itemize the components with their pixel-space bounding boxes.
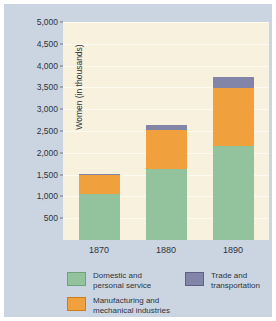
y-tick-mark (60, 109, 63, 110)
y-tick-mark (60, 174, 63, 175)
plot-wrapper: 5001,0001,5002,0002,5003,0003,5004,0004,… (63, 22, 269, 240)
bar-group: 1880 (146, 22, 187, 240)
legend-label: Trade and transportation (211, 271, 260, 290)
legend-label: Domestic and personal service (93, 271, 151, 290)
chart-board: 5001,0001,5002,0002,5003,0003,5004,0004,… (4, 4, 272, 317)
legend-label: Manufacturing and mechanical industries (93, 296, 170, 315)
legend-item: Domestic and personal service (67, 271, 151, 290)
legend-swatch (185, 272, 204, 286)
bar-group: 1890 (213, 22, 254, 240)
y-tick-label: 1,000 (37, 191, 58, 201)
bar-segment (79, 175, 120, 193)
bar-segment (213, 88, 254, 146)
legend-swatch (67, 297, 86, 311)
y-tick-label: 5,000 (37, 17, 58, 27)
y-tick-label: 3,000 (37, 104, 58, 114)
y-tick-mark (60, 65, 63, 66)
bar-segment (213, 77, 254, 89)
legend-swatch (67, 272, 86, 286)
y-tick-label: 4,000 (37, 61, 58, 71)
legend-item: Manufacturing and mechanical industries (67, 296, 170, 315)
y-tick-label: 500 (44, 213, 58, 223)
chart-figure: 5001,0001,5002,0002,5003,0003,5004,0004,… (0, 0, 276, 321)
y-tick-mark (60, 196, 63, 197)
bar-segment (146, 169, 187, 240)
y-tick-label: 4,500 (37, 39, 58, 49)
bar-segment (79, 194, 120, 240)
bar-group: 1870 (79, 22, 120, 240)
x-tick-label: 1880 (156, 245, 176, 255)
bar-segment (146, 125, 187, 129)
bar-segment (213, 146, 254, 240)
y-tick-label: 2,500 (37, 126, 58, 136)
y-tick-mark (60, 43, 63, 44)
chart-legend: Domestic and personal serviceManufacturi… (67, 271, 272, 319)
bar-segment (146, 130, 187, 170)
y-tick-mark (60, 22, 63, 23)
x-tick-label: 1870 (89, 245, 109, 255)
y-tick-mark (60, 87, 63, 88)
y-tick-mark (60, 152, 63, 153)
x-tick-label: 1890 (223, 245, 243, 255)
y-tick-label: 1,500 (37, 170, 58, 180)
y-tick-label: 3,500 (37, 82, 58, 92)
y-tick-mark (60, 218, 63, 219)
legend-item: Trade and transportation (185, 271, 260, 290)
bar-segment (79, 174, 120, 175)
y-tick-label: 2,000 (37, 148, 58, 158)
y-tick-mark (60, 131, 63, 132)
